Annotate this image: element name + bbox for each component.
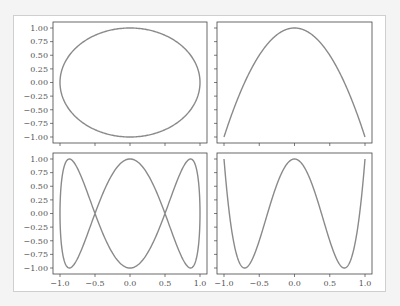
figure-canvas: 1.000.750.500.250.00−0.25−0.50−0.75−1.00… — [0, 0, 400, 306]
y-tick-label: 0.00 — [30, 209, 48, 218]
y-tick-label: 0.00 — [30, 78, 48, 87]
curve-line — [224, 28, 365, 137]
y-tick-label: −1.00 — [23, 133, 48, 142]
x-tick-label: 0.0 — [124, 279, 137, 288]
curve-line — [224, 159, 365, 268]
x-tick-label: 0.5 — [159, 279, 172, 288]
x-tick-label: −1.0 — [50, 279, 69, 288]
subplot-bottom-left: 1.000.750.500.250.00−0.25−0.50−0.75−1.00… — [23, 153, 207, 288]
y-tick-label: 1.00 — [30, 24, 48, 33]
curve-line — [60, 28, 200, 137]
y-tick-label: −0.50 — [23, 237, 48, 246]
y-tick-label: −0.25 — [23, 92, 48, 101]
axes-box — [53, 153, 207, 274]
x-tick-label: 1.0 — [194, 279, 207, 288]
y-tick-label: −1.00 — [23, 264, 48, 273]
y-tick-label: −0.75 — [23, 250, 48, 259]
y-tick-label: 0.25 — [30, 65, 48, 74]
axes-box — [217, 153, 372, 274]
y-tick-label: −0.25 — [23, 223, 48, 232]
y-tick-label: 0.50 — [30, 182, 48, 191]
y-tick-label: −0.75 — [23, 119, 48, 128]
y-tick-label: 1.00 — [30, 155, 48, 164]
x-tick-label: −1.0 — [214, 279, 233, 288]
x-tick-label: 1.0 — [359, 279, 372, 288]
y-tick-label: 0.25 — [30, 196, 48, 205]
y-tick-label: 0.50 — [30, 51, 48, 60]
subplot-top-right — [214, 22, 372, 146]
x-tick-label: 0.5 — [323, 279, 336, 288]
y-tick-label: 0.75 — [30, 37, 48, 46]
x-tick-label: −0.5 — [250, 279, 269, 288]
curve-line — [60, 159, 200, 268]
axes-box — [53, 22, 207, 143]
x-tick-label: −0.5 — [85, 279, 104, 288]
x-tick-label: 0.0 — [288, 279, 301, 288]
y-tick-label: 0.75 — [30, 168, 48, 177]
y-tick-label: −0.50 — [23, 106, 48, 115]
subplot-bottom-right: −1.0−0.50.00.51.0 — [214, 153, 372, 288]
subplot-top-left: 1.000.750.500.250.00−0.25−0.50−0.75−1.00 — [23, 22, 207, 146]
axes-box — [217, 22, 372, 143]
